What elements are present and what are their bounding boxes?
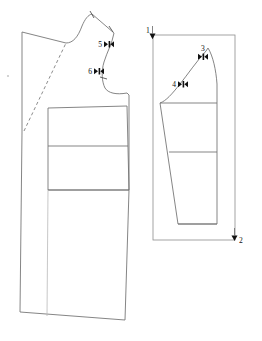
annotation-6-label: 6	[88, 67, 92, 76]
annotation-2: 2	[232, 228, 244, 245]
armhole-curve	[102, 33, 127, 94]
annotation-1-label: 1	[146, 26, 150, 35]
right-panel-group: 1 2 3 4	[146, 26, 243, 245]
bodice-yoke-upper-edge	[22, 14, 92, 43]
grain-line-faint	[47, 190, 48, 316]
sleeve-cap-outline	[160, 48, 217, 224]
pattern-drawing: 5 6 1	[0, 0, 262, 341]
pattern-diagram-canvas: 5 6 1	[0, 0, 262, 341]
annotation-3: 3	[198, 44, 208, 60]
shoulder-seam	[92, 14, 114, 33]
annotation-3-label: 3	[201, 44, 205, 53]
notch-armhole	[100, 77, 107, 79]
bodice-outline	[20, 32, 129, 320]
annotation-4-label: 4	[172, 80, 176, 89]
annotation-4-arrow-icon	[178, 81, 188, 87]
annotation-4: 4	[172, 80, 188, 89]
annotation-5-arrow-icon	[104, 41, 114, 47]
annotation-1-triangle-icon	[150, 34, 156, 40]
bodice-inner-block	[48, 106, 129, 190]
edge-speck-mark	[7, 75, 9, 77]
annotation-5-label: 5	[98, 40, 102, 49]
left-panel-group: 5 6	[7, 11, 129, 320]
annotation-1: 1	[146, 26, 156, 39]
annotation-2-label: 2	[239, 236, 243, 245]
construction-dash-line	[24, 43, 66, 131]
